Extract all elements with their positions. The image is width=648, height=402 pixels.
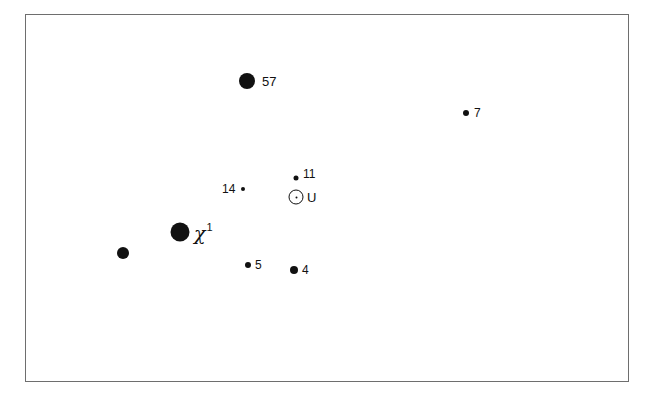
point-chi1-marker <box>171 223 190 242</box>
point-11-label: 11 <box>303 168 315 180</box>
point-14-label: 14 <box>222 183 235 195</box>
point-57-label: 57 <box>262 75 276 88</box>
diagram-frame <box>25 14 629 382</box>
sun-label: U <box>307 191 316 204</box>
point-5-marker <box>245 262 251 268</box>
point-7-label: 7 <box>474 107 481 119</box>
point-4-marker <box>290 266 298 274</box>
point-11-marker <box>294 176 299 181</box>
point-57-marker <box>239 73 255 89</box>
point-14-marker <box>241 187 245 191</box>
sun-symbol-icon <box>289 190 304 205</box>
point-chi1-label: χ1 <box>194 222 213 243</box>
point-5-label: 5 <box>255 259 262 271</box>
point-7-marker <box>463 110 469 116</box>
point-4-label: 4 <box>302 264 309 276</box>
point-unlabeled-marker <box>117 247 129 259</box>
